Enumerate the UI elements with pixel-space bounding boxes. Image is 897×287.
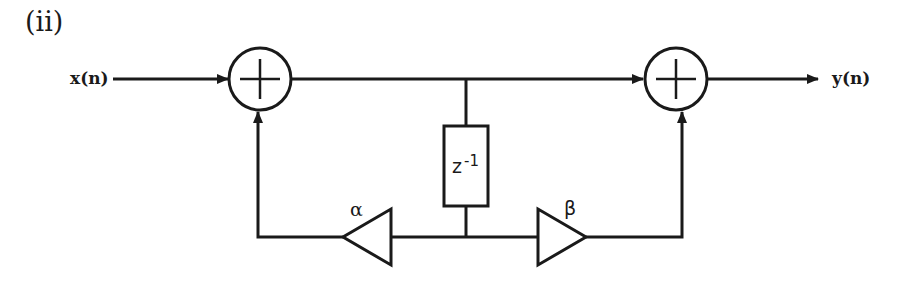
gain-beta-label: β bbox=[564, 197, 576, 219]
feedback-alpha-path bbox=[258, 112, 343, 237]
adder-right bbox=[645, 48, 707, 110]
gain-alpha-label: α bbox=[350, 198, 363, 220]
part-label: (ii) bbox=[25, 6, 63, 37]
delay-label: z-1 bbox=[452, 152, 479, 177]
gain-beta bbox=[538, 209, 586, 265]
feedforward-beta-path bbox=[586, 112, 682, 237]
delay-label-exponent: -1 bbox=[464, 152, 479, 170]
block-diagram bbox=[0, 0, 897, 287]
input-label: x(n) bbox=[70, 68, 109, 88]
output-label: y(n) bbox=[832, 68, 870, 88]
adder-left bbox=[229, 48, 291, 110]
delay-label-base: z bbox=[452, 155, 462, 177]
